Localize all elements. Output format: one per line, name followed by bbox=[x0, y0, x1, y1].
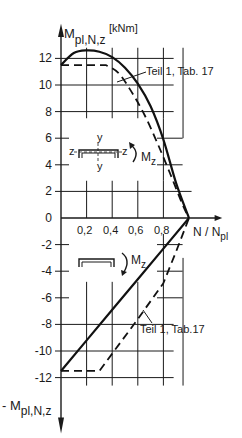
y-tick-label: 12 bbox=[39, 51, 52, 65]
section-axis-z-right: z bbox=[122, 145, 128, 157]
y-tick-label: 2 bbox=[45, 184, 52, 198]
decorations bbox=[74, 72, 152, 323]
x-tick-label: 0,8 bbox=[154, 224, 169, 236]
moment-label-lower: Mz bbox=[131, 253, 146, 267]
series-line-dashed bbox=[61, 65, 189, 218]
reference-label-upper: Teil 1, Tab. 17 bbox=[146, 65, 214, 77]
y-axis-unit: [kNm] bbox=[109, 22, 138, 34]
x-axis-label: N / Npl bbox=[193, 225, 228, 239]
x-tick-label: 0,2 bbox=[77, 224, 92, 236]
section-axis-z-left: z bbox=[69, 145, 75, 157]
y-tick-label: 6 bbox=[45, 131, 52, 145]
y-tick-label: 8 bbox=[45, 105, 52, 119]
reference-label-lower: Teil 1, Tab.17 bbox=[140, 323, 205, 335]
y-tick-label: -8 bbox=[41, 317, 52, 331]
y-tick-label: -4 bbox=[41, 264, 52, 278]
moment-label-upper: Mz bbox=[141, 150, 156, 164]
y-axis-label-bottom: - Mpl,N,z bbox=[2, 398, 51, 413]
y-tick-label: -2 bbox=[41, 238, 52, 252]
x-tick-label: 0,4 bbox=[103, 224, 118, 236]
y-tick-label: -10 bbox=[35, 344, 52, 358]
section-axis-y-bottom: y bbox=[97, 160, 103, 172]
y-tick-label: 10 bbox=[39, 78, 52, 92]
y-tick-label: 0 bbox=[45, 211, 52, 225]
section-axis-y-top: y bbox=[97, 131, 103, 143]
y-tick-label: -6 bbox=[41, 291, 52, 305]
y-axis-label-top: Mpl,N,z bbox=[64, 26, 106, 41]
y-tick-label: -12 bbox=[35, 371, 52, 385]
x-tick-label: 0,6 bbox=[128, 224, 143, 236]
series-line-solid bbox=[61, 218, 189, 371]
y-tick-label: 4 bbox=[45, 158, 52, 172]
